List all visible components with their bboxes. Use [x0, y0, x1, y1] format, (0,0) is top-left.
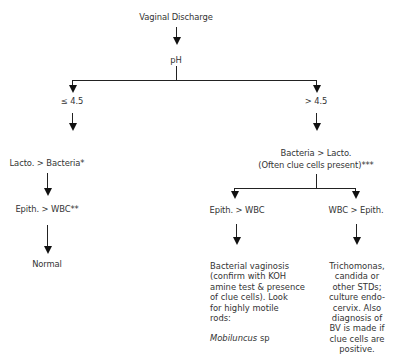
organism-name: Mobiluncus	[210, 333, 257, 343]
epith-wbc-branch-label: Epith. > WBC	[209, 205, 264, 215]
clue-cells-note: (Often clue cells present)***	[258, 160, 373, 170]
arrow-down-icon	[313, 123, 321, 131]
branch-line	[234, 188, 356, 189]
arrow-down-icon	[44, 246, 52, 254]
arrow-down-icon	[173, 37, 181, 45]
bacterial-vaginosis-result: Bacterial vaginosis (confirm with KOH am…	[210, 261, 305, 344]
result-line: positive.	[329, 344, 385, 354]
high-ph-label: > 4.5	[305, 96, 328, 106]
low-ph-label: ≤ 4.5	[61, 96, 84, 106]
result-line: amine test & presence	[210, 282, 305, 292]
result-line: diagnosis of	[329, 313, 385, 323]
result-line: of clue cells). Look	[210, 292, 305, 302]
trichomonas-result: Trichomonas, candida or other STDs; cult…	[329, 261, 385, 354]
normal-result-label: Normal	[32, 259, 62, 269]
branch-line	[72, 80, 317, 81]
result-line: candida or	[329, 271, 385, 281]
result-line: other STDs;	[329, 282, 385, 292]
result-line: rods:	[210, 313, 305, 323]
arrow-line	[176, 27, 177, 37]
organism-line: Mobiluncus sp	[210, 333, 305, 343]
result-line: (confirm with KOH	[210, 271, 305, 281]
arrow-down-icon	[231, 191, 239, 199]
connector-line	[176, 66, 177, 80]
bacteria-lacto-label: Bacteria > Lacto.	[281, 148, 352, 158]
wbc-epith-branch-label: WBC > Epith.	[328, 205, 383, 215]
arrow-line	[236, 224, 237, 238]
arrow-line	[356, 224, 357, 238]
result-line: cervix. Also	[329, 303, 385, 313]
result-line: Trichomonas,	[329, 261, 385, 271]
arrow-down-icon	[69, 85, 77, 93]
epith-wbc-label: Epith. > WBC**	[15, 204, 78, 214]
result-line: clue cells are	[329, 334, 385, 344]
arrow-down-icon	[353, 237, 361, 245]
arrow-down-icon	[313, 85, 321, 93]
result-line: culture endo-	[329, 292, 385, 302]
organism-suffix: sp	[257, 333, 269, 343]
arrow-line	[47, 173, 48, 188]
arrow-down-icon	[44, 188, 52, 196]
connector-line	[316, 174, 317, 188]
result-line: BV is made if	[329, 323, 385, 333]
result-line: for highly motile	[210, 303, 305, 313]
result-line: Bacterial vaginosis	[210, 261, 305, 271]
lacto-bacteria-label: Lacto. > Bacteria*	[10, 158, 85, 168]
arrow-down-icon	[69, 123, 77, 131]
ph-node-label: pH	[170, 55, 181, 65]
arrow-down-icon	[233, 237, 241, 245]
root-node-label: Vaginal Discharge	[139, 12, 213, 22]
arrow-line	[47, 225, 48, 247]
arrow-down-icon	[352, 191, 360, 199]
